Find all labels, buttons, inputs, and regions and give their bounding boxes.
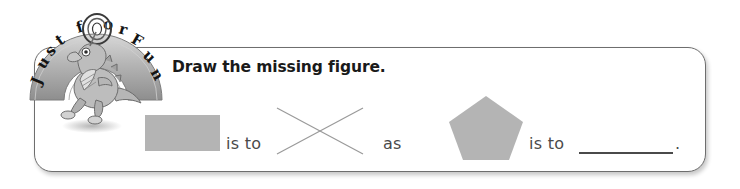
x-mark-shape bbox=[274, 105, 366, 157]
is-to-label-first: is to bbox=[226, 134, 261, 153]
pentagon-shape bbox=[448, 95, 524, 161]
worksheet-page: Draw the missing figure. is to as is to … bbox=[0, 0, 740, 189]
just-for-fun-logo: J u s t f o r F u n bbox=[24, 2, 168, 136]
svg-text:r: r bbox=[117, 20, 131, 40]
svg-text:t: t bbox=[52, 31, 68, 50]
as-label: as bbox=[383, 134, 402, 153]
is-to-label-second: is to bbox=[529, 134, 564, 153]
period-mark: . bbox=[675, 134, 680, 153]
page-title: Draw the missing figure. bbox=[172, 58, 386, 76]
answer-blank[interactable] bbox=[579, 152, 673, 154]
